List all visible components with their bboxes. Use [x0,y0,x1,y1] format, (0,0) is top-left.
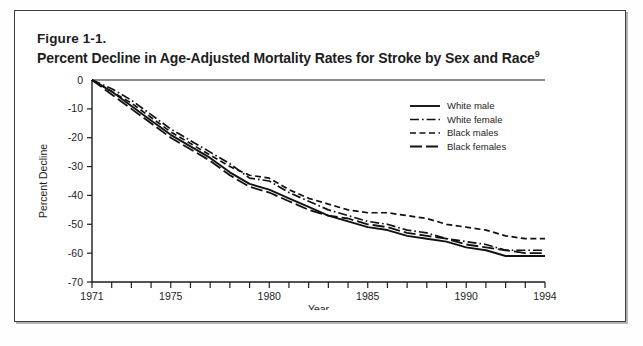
legend-label-white-female: White female [447,114,502,125]
y-axis-tick-label: -60 [68,247,83,259]
x-axis-tick-label: 1994 [533,290,557,302]
x-axis-tick-label: 1971 [80,290,104,302]
chart-plot-area: 0-10-20-30-40-50-60-70197119751980198519… [0,60,643,310]
legend-label-white-male: White male [447,100,495,111]
legend-label-black-females: Black females [447,141,506,152]
figure-page: Figure 1-1. Percent Decline in Age-Adjus… [0,0,643,346]
figure-number: Figure 1-1. [37,31,106,46]
stroke-mortality-line-chart: 0-10-20-30-40-50-60-70197119751980198519… [0,60,643,310]
x-axis-tick-label: 1985 [356,290,380,302]
figure-title-superscript: 9 [535,49,540,59]
y-axis-tick-label: -50 [68,218,83,230]
y-axis-tick-label: -40 [68,189,83,201]
x-axis-tick-label: 1990 [455,290,479,302]
y-axis-tick-label: -30 [68,160,83,172]
y-axis-tick-label: -70 [68,276,83,288]
x-axis-tick-label: 1980 [258,290,282,302]
x-axis-tick-label: 1975 [159,290,183,302]
y-axis-tick-label: 0 [77,74,83,86]
y-axis-tick-label: -20 [68,131,83,143]
y-axis-title: Percent Decline [37,144,49,218]
legend-label-black-males: Black males [447,127,498,138]
x-axis-title: Year [308,303,330,310]
y-axis-tick-label: -10 [68,102,83,114]
